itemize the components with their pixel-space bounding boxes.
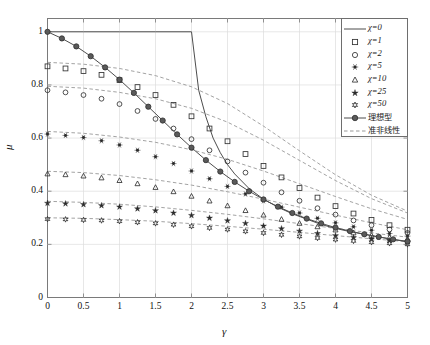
- legend-item-8: 准非线性: [342, 123, 407, 136]
- asterisk-dot-icon: [342, 59, 368, 71]
- legend-item-3: χ=5: [342, 59, 407, 72]
- y-tick-0.4: 0.4: [0, 185, 43, 195]
- legend-item-6: χ=50: [342, 97, 407, 110]
- legend-item-4: χ=10: [342, 72, 407, 85]
- y-tick-0: 0: [0, 292, 43, 302]
- chart-root: 00.20.40.60.81 00.511.522.533.544.55 μ γ…: [0, 0, 430, 345]
- legend-item-1: χ=1: [342, 34, 407, 47]
- solid-line-icon: [342, 21, 368, 33]
- legend-label: χ=2: [368, 48, 382, 58]
- x-tick-0.5: 0.5: [72, 301, 96, 311]
- dashed-line-icon: [342, 123, 368, 135]
- y-tick-1: 1: [0, 26, 43, 36]
- legend-item-5: χ=25: [342, 84, 407, 97]
- x-tick-2.5: 2.5: [216, 301, 240, 311]
- x-tick-3.5: 3.5: [288, 301, 312, 311]
- square-open-icon: [342, 34, 368, 46]
- star-icon: [342, 85, 368, 97]
- legend-label: 理想型: [368, 110, 392, 122]
- y-tick-0.6: 0.6: [0, 132, 43, 142]
- x-tick-5: 5: [396, 301, 420, 311]
- x-tick-4.5: 4.5: [360, 301, 384, 311]
- y-tick-0.2: 0.2: [0, 238, 43, 248]
- line-circle-filled-icon: [342, 110, 368, 122]
- hexagram-open-icon: [342, 97, 368, 109]
- legend-label: χ=10: [368, 73, 386, 83]
- x-tick-4: 4: [324, 301, 348, 311]
- legend-label: χ=1: [368, 35, 382, 45]
- legend-label: χ=5: [368, 60, 382, 70]
- legend-item-0: χ=0: [342, 21, 407, 34]
- x-axis-label: γ: [222, 325, 226, 337]
- legend-label: χ=50: [368, 98, 386, 108]
- x-tick-3: 3: [252, 301, 276, 311]
- x-tick-1: 1: [108, 301, 132, 311]
- legend-item-2: χ=2: [342, 46, 407, 59]
- legend-label: 准非线性: [368, 123, 400, 135]
- triangle-open-icon: [342, 72, 368, 84]
- y-axis-label: μ: [2, 144, 14, 150]
- legend-label: χ=25: [368, 86, 386, 96]
- y-tick-0.8: 0.8: [0, 79, 43, 89]
- circle-open-icon: [342, 47, 368, 59]
- legend-item-7: 理想型: [342, 110, 407, 123]
- legend: χ=0χ=1χ=2χ=5χ=10χ=25χ=50理想型准非线性: [341, 18, 408, 137]
- legend-label: χ=0: [368, 22, 382, 32]
- x-tick-0: 0: [36, 301, 60, 311]
- x-tick-2: 2: [180, 301, 204, 311]
- x-tick-1.5: 1.5: [144, 301, 168, 311]
